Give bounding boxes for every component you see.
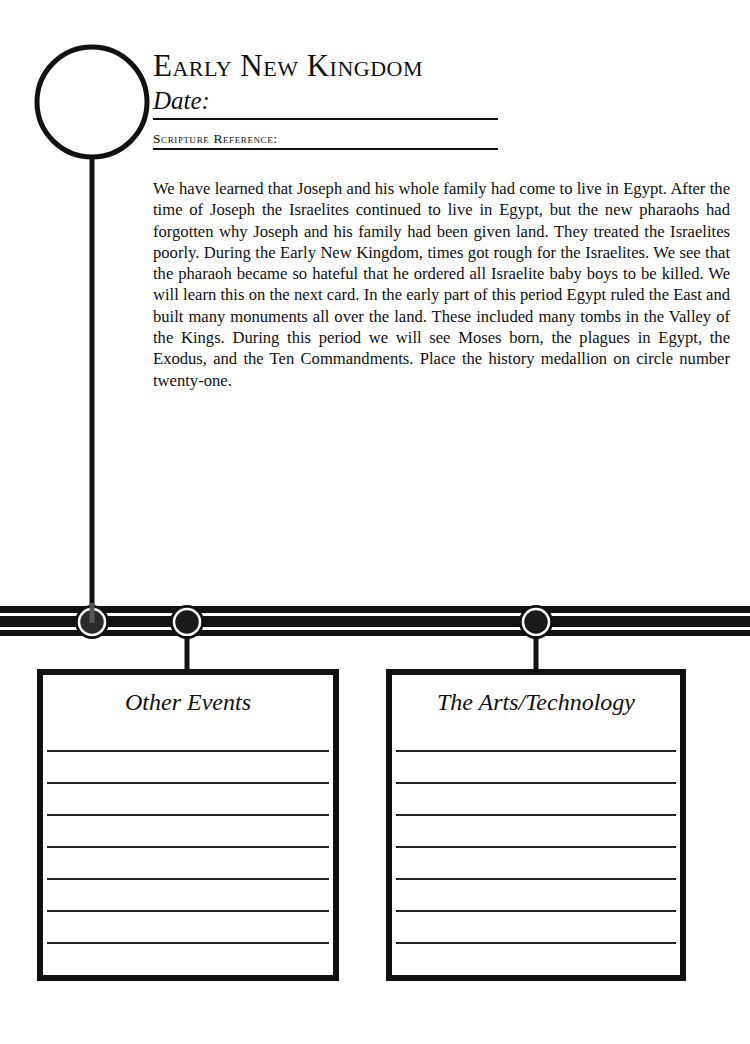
- writing-line[interactable]: [47, 814, 329, 816]
- writing-line[interactable]: [47, 750, 329, 752]
- scripture-reference-field-line[interactable]: [153, 148, 498, 150]
- date-field-line[interactable]: [153, 118, 498, 120]
- writing-line[interactable]: [396, 814, 676, 816]
- connector-arts-technology: [534, 636, 539, 672]
- writing-line[interactable]: [396, 942, 676, 944]
- page-title: Early New Kingdom: [153, 50, 423, 81]
- writing-line[interactable]: [396, 910, 676, 912]
- arts-technology-box: The Arts/Technology: [386, 669, 686, 981]
- timeline-node-2: [170, 605, 204, 639]
- body-paragraph: We have learned that Joseph and his whol…: [153, 178, 730, 391]
- date-label: Date:: [153, 88, 210, 113]
- other-events-box: Other Events: [37, 669, 339, 981]
- connector-other-events: [185, 636, 190, 672]
- writing-line[interactable]: [47, 878, 329, 880]
- timeline-node-3: [519, 605, 553, 639]
- timeline-band: [0, 606, 750, 636]
- writing-line[interactable]: [47, 782, 329, 784]
- medallion-circle-icon: [37, 47, 147, 157]
- scripture-reference-label: Scripture Reference:: [153, 132, 278, 146]
- writing-line[interactable]: [47, 910, 329, 912]
- medallion-stem: [90, 157, 95, 617]
- writing-line[interactable]: [396, 878, 676, 880]
- arts-technology-title: The Arts/Technology: [392, 690, 680, 714]
- writing-line[interactable]: [47, 846, 329, 848]
- writing-line[interactable]: [396, 846, 676, 848]
- other-events-title: Other Events: [43, 690, 333, 714]
- writing-line[interactable]: [396, 750, 676, 752]
- writing-line[interactable]: [396, 782, 676, 784]
- writing-line[interactable]: [47, 942, 329, 944]
